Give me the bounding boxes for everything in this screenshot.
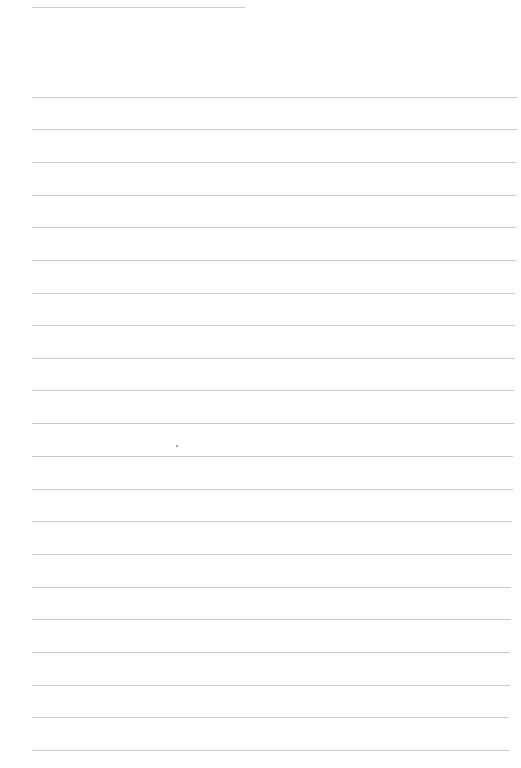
ruled-line [32, 97, 517, 98]
ruled-line [32, 293, 515, 294]
ruled-line [32, 489, 513, 490]
ruled-line [32, 619, 511, 620]
ruled-line [32, 521, 512, 522]
ruled-line [32, 260, 516, 261]
ruled-line [32, 358, 515, 359]
ruled-line [32, 162, 516, 163]
header-rule [32, 7, 245, 8]
lined-paper-page [0, 0, 521, 768]
ruled-line [32, 587, 511, 588]
ruled-line [32, 456, 513, 457]
ruled-line [32, 195, 516, 196]
ruled-line [32, 685, 510, 686]
ruled-line [32, 390, 514, 391]
ruled-line [32, 227, 516, 228]
ruled-line [32, 129, 517, 130]
ruled-line [32, 423, 514, 424]
ruled-line [32, 717, 509, 718]
ink-speck [176, 445, 178, 447]
ruled-line [32, 652, 510, 653]
ruled-line [32, 554, 512, 555]
ruled-line [32, 750, 509, 751]
ruled-line [32, 325, 515, 326]
